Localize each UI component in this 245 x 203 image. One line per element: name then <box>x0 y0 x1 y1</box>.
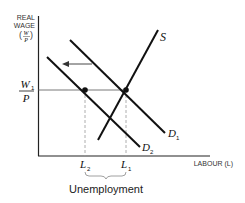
label-s: S <box>160 30 166 44</box>
unemployment-brace <box>85 172 126 179</box>
point-l1-w1 <box>123 87 129 93</box>
svg-text:W: W <box>24 30 30 36</box>
svg-text:1: 1 <box>31 85 35 91</box>
svg-text:L: L <box>120 158 127 170</box>
svg-text:1: 1 <box>128 166 132 172</box>
demand-curve-d1 <box>70 40 165 133</box>
wage-w1-label: W 1 P <box>19 78 35 104</box>
svg-text:W: W <box>20 78 30 90</box>
tick-l2: L 2 <box>79 158 91 172</box>
x-axis-label: LABOUR (L) <box>194 160 233 168</box>
y-axis-label-wage: WAGE <box>14 22 35 29</box>
unemployment-caption: Unemployment <box>69 183 143 195</box>
tick-l1: L 1 <box>120 158 132 172</box>
supply-curve-s <box>98 30 158 140</box>
svg-text:2: 2 <box>150 149 154 155</box>
svg-text:(: ( <box>19 30 22 40</box>
svg-text:D: D <box>141 141 150 153</box>
svg-text:2: 2 <box>87 166 91 172</box>
label-d1: D 1 <box>167 127 180 141</box>
shift-arrow-icon <box>62 61 92 67</box>
y-axis-fraction: ( W P ) <box>19 30 33 43</box>
svg-text:D: D <box>167 127 176 139</box>
y-axis-label-real: REAL <box>17 14 35 21</box>
label-d2: D 2 <box>141 141 154 155</box>
svg-text:L: L <box>79 158 86 170</box>
svg-text:P: P <box>23 37 28 43</box>
svg-text:1: 1 <box>176 135 180 141</box>
svg-text:P: P <box>22 92 30 104</box>
point-l2-w1 <box>82 87 88 93</box>
svg-text:): ) <box>30 30 33 40</box>
labour-market-diagram: REAL WAGE ( W P ) W 1 P S D 1 D 2 LABO <box>0 0 245 203</box>
